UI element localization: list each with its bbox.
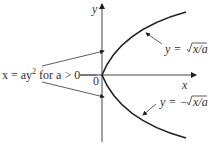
svg-text:x/a: x/a [192, 95, 208, 109]
pointer-arrow-lower-branch [143, 104, 156, 115]
upper-branch-label: y = x/a [164, 42, 208, 56]
x-axis-label: x [181, 78, 188, 92]
equation-label: x = ay2 for a > 0 [2, 67, 80, 82]
svg-text:y = −: y = − [159, 95, 188, 109]
origin-label: 0 [93, 74, 99, 88]
y-axis-label: y [91, 2, 98, 16]
lower-branch-label: y = − x/a [159, 95, 208, 109]
parabola-diagram: y x 0 x = ay2 for a > 0 y = x/a y = − x/… [0, 0, 210, 145]
pointer-arrow-upper [42, 51, 104, 66]
pointer-arrow-upper-branch [146, 33, 162, 44]
svg-text:y =: y = [164, 42, 181, 56]
svg-text:x/a: x/a [192, 42, 208, 56]
